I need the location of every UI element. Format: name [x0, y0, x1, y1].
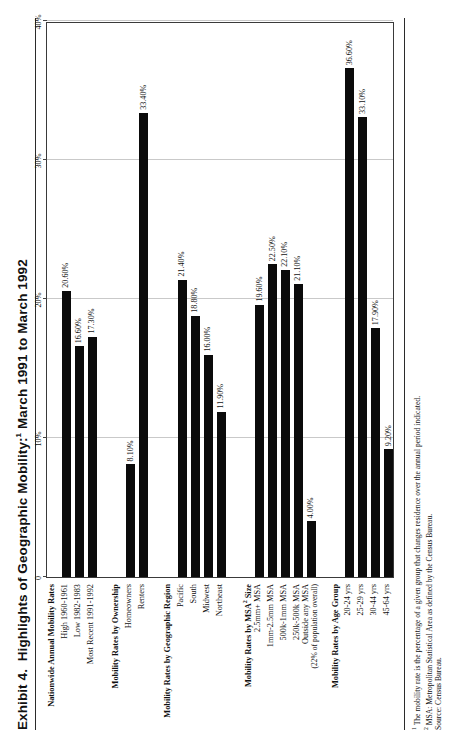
bar	[217, 412, 226, 577]
category-sublabel: (22% of population overall)	[311, 584, 320, 669]
divider-bottom	[404, 18, 405, 730]
axis-tick	[43, 576, 47, 577]
category-label: Pacific	[177, 584, 186, 607]
category-label: Northeast	[216, 584, 225, 616]
bar-value-label: 33.40%	[139, 85, 148, 110]
bar	[294, 284, 303, 577]
category-label: 250k-500k MSA	[293, 584, 302, 640]
bar	[281, 270, 290, 577]
bar-value-label: 18.80%	[190, 288, 199, 313]
bar	[88, 337, 97, 577]
gridline	[47, 159, 393, 160]
page-title: Exhibit 4. Highlights of Geographic Mobi…	[14, 259, 30, 730]
bar-value-label: 20.60%	[61, 263, 70, 288]
category-label: Renters	[138, 584, 147, 609]
x-axis-tick-labels: 010%20%30%40%	[34, 22, 46, 578]
footnotes-block: 1 The mobility rate is the percentage of…	[410, 18, 443, 730]
bar	[255, 305, 264, 577]
bar-value-label: 11.90%	[216, 384, 225, 409]
category-label: Homeowners	[125, 584, 134, 628]
bar-value-label: 4.00%	[306, 498, 315, 519]
bar-value-label: 17.90%	[371, 300, 380, 325]
axis-tick	[43, 437, 47, 438]
bar-value-label: 17.30%	[87, 309, 96, 334]
footnote-1-marker: 1	[411, 727, 417, 730]
exhibit-sheet: Exhibit 4. Highlights of Geographic Mobi…	[0, 0, 460, 748]
bar	[358, 117, 367, 577]
bar	[178, 280, 187, 577]
footnote-2-text: MSA: Metropolitan Statistical Area as de…	[424, 514, 433, 725]
bar	[371, 328, 380, 577]
axis-tick-label: 20%	[34, 292, 43, 307]
category-label: South	[190, 584, 199, 603]
bar-value-label: 16.00%	[203, 327, 212, 352]
source-line: Source: Census Bureau.	[434, 18, 443, 730]
title-period: March 1991 to March 1992	[15, 259, 30, 433]
axis-tick-label: 30%	[34, 153, 43, 168]
title-footnote-marker: 1	[14, 433, 23, 438]
category-label: Midwest	[203, 584, 212, 613]
gridline	[47, 298, 393, 299]
rotated-page-canvas: Exhibit 4. Highlights of Geographic Mobi…	[0, 0, 460, 748]
exhibit-label: Exhibit 4.	[15, 669, 30, 730]
category-group-header: Mobility Rates by Geographic Region	[164, 584, 173, 718]
axis-tick-label: 0	[34, 576, 43, 580]
axis-tick	[43, 20, 47, 21]
plot-area: 20.60%16.60%17.30%8.10%33.40%21.40%18.80…	[46, 22, 394, 578]
category-label: Low 1982-1983	[74, 584, 83, 637]
axis-tick	[43, 298, 47, 299]
bar-value-label: 9.20%	[384, 425, 393, 446]
bar-value-label: 19.60%	[255, 277, 264, 302]
bar-value-label: 8.10%	[126, 441, 135, 462]
bar-value-label: 33.10%	[358, 89, 367, 114]
bar-value-label: 22.10%	[280, 242, 289, 267]
bar	[384, 449, 393, 577]
category-labels-column: Nationwide Annual Mobility RatesHigh 196…	[46, 580, 394, 730]
bar	[345, 68, 354, 577]
title-text: Highlights of Geographic Mobility:	[15, 437, 30, 661]
category-label: 2.5mm+ MSA	[254, 584, 263, 632]
footnote-1-text: The mobility rate is the percentage of a…	[413, 396, 422, 725]
footnote-2-marker: 2	[423, 727, 429, 730]
bar	[268, 264, 277, 577]
category-group-header: Mobility Rates by Age Group	[332, 584, 341, 688]
bar-value-label: 16.60%	[74, 318, 83, 343]
axis-tick-label: 10%	[34, 431, 43, 446]
page-frame: Exhibit 4. Highlights of Geographic Mobi…	[0, 0, 460, 748]
category-group-header: Nationwide Annual Mobility Rates	[48, 584, 57, 707]
footnote-2: 2 MSA: Metropolitan Statistical Area as …	[422, 18, 434, 730]
bar	[307, 521, 316, 577]
bar-value-label: 21.40%	[177, 252, 186, 277]
category-group-header: Mobility Rates by Ownership	[112, 584, 121, 688]
gridline	[47, 20, 393, 21]
chart-container: 010%20%30%40% Nationwide Annual Mobility…	[46, 18, 394, 730]
bar-value-label: 22.50%	[268, 236, 277, 261]
category-label: 1mm-2.5mm MSA	[267, 584, 276, 647]
category-label: 20-24 yrs	[344, 584, 353, 616]
axis-tick	[43, 159, 47, 160]
category-label: High 1960-1961	[61, 584, 70, 639]
bar	[62, 291, 71, 577]
category-group-header: Mobility Rates by MSA2 Size	[241, 584, 253, 687]
bar-value-label: 21.10%	[293, 256, 302, 281]
bar	[139, 113, 148, 577]
category-label: Outside any MSA(22% of population overal…	[302, 584, 319, 669]
category-label: 45-64 yrs	[383, 584, 392, 616]
bar	[204, 355, 213, 577]
category-label: Most Recent 1991-1992	[87, 584, 96, 664]
bar	[126, 464, 135, 577]
bar	[75, 346, 84, 577]
footnote-1: 1 The mobility rate is the percentage of…	[410, 18, 422, 730]
category-label: 500k-1mm MSA	[280, 584, 289, 640]
bar-value-label: 36.60%	[345, 40, 354, 65]
category-label: 25-29 yrs	[357, 584, 366, 616]
axis-tick-label: 40%	[34, 14, 43, 29]
bar	[191, 316, 200, 577]
category-label: 30-44 yrs	[370, 584, 379, 616]
